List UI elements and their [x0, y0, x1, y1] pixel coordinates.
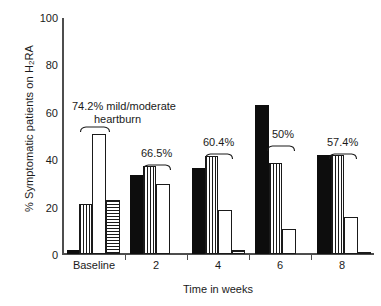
brace-week2	[143, 164, 171, 171]
bar-week4-none	[192, 168, 205, 254]
annotation-week4: 60.4%	[203, 136, 234, 148]
y-tick-label-40: 40	[18, 154, 58, 166]
annotation-baseline: 74.2% mild/moderate heartburn	[72, 100, 176, 126]
x-group-separator-4	[311, 255, 312, 260]
bar-week8-mild	[331, 155, 344, 255]
x-axis-title: Time in weeks	[62, 283, 374, 295]
brace-baseline	[80, 126, 110, 133]
bar-week2-mild	[143, 166, 156, 254]
y-tick-label-0: 0	[18, 249, 58, 261]
brace-week8	[329, 153, 357, 160]
x-tick-label-week8: 8	[339, 259, 345, 271]
x-group-separator-2	[187, 255, 188, 260]
y-tick-label-20: 20	[18, 202, 58, 214]
x-tick-label-week2: 2	[153, 259, 159, 271]
x-group-separator-1	[125, 255, 126, 260]
bar-baseline-mild	[79, 204, 92, 254]
bar-week6-moderate	[282, 229, 296, 254]
bar-week8-severe	[358, 252, 371, 254]
bar-week2-none	[130, 175, 143, 254]
y-tick-label-60: 60	[18, 107, 58, 119]
y-axis-title-pre: % Symptomatic patients on H	[23, 65, 35, 212]
y-axis-title: % Symptomatic patients on H2RA	[23, 4, 36, 254]
annotation-week6: 50%	[272, 128, 294, 140]
bar-week4-mild	[205, 156, 218, 254]
bar-week6-mild	[269, 163, 282, 254]
x-tick-label-week4: 4	[215, 259, 221, 271]
bar-week8-moderate	[344, 217, 358, 254]
bar-week8-none	[317, 155, 331, 255]
y-tick-label-80: 80	[18, 59, 58, 71]
brace-week6	[267, 145, 295, 152]
x-group-separator-3	[249, 255, 250, 260]
x-tick-label-week6: 6	[277, 259, 283, 271]
annotation-baseline-line2: heartburn	[72, 113, 176, 126]
bar-baseline-none	[67, 250, 79, 254]
chart-figure: % Symptomatic patients on H2RA 0 20 40 6…	[0, 0, 381, 306]
bar-week6-none	[255, 105, 269, 254]
bar-week2-moderate	[156, 184, 170, 254]
brace-week4	[205, 153, 233, 160]
bar-week4-severe	[232, 250, 245, 254]
annotation-week8: 57.4%	[327, 136, 358, 148]
bar-week4-moderate	[218, 210, 232, 254]
annotation-baseline-line1: 74.2% mild/moderate	[72, 100, 176, 112]
annotation-week2: 66.5%	[141, 147, 172, 159]
y-tick-label-100: 100	[18, 12, 58, 24]
bar-baseline-moderate	[92, 134, 106, 254]
bar-baseline-severe	[106, 200, 120, 255]
y-axis-title-post: RA	[23, 45, 35, 60]
x-tick-label-baseline: Baseline	[73, 259, 115, 271]
